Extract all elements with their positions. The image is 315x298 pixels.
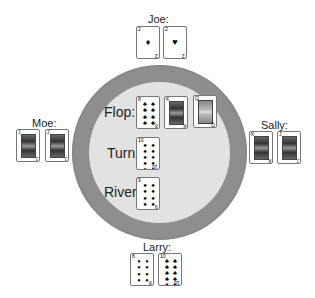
king-face-art-icon — [169, 101, 184, 125]
card-rank: 2 — [138, 27, 141, 32]
card-rank: 2 — [155, 53, 158, 58]
larry-card-2: 10 ♣♣ ♣♣ ♣♣ ♣♣ ♣♣ 10 — [158, 253, 182, 286]
card-rank: 8 — [155, 123, 158, 128]
sally-card-1: K K — [249, 131, 273, 164]
flop-card-1: 8 ♣♣ ♣♣ ♣♣ ♣♣ 8 — [136, 96, 160, 129]
king-face-art-icon — [254, 136, 269, 160]
player-label-sally: Sally: — [261, 119, 288, 131]
card-rank: 2 — [165, 27, 168, 32]
diamond-suit-icon: ♦ — [137, 37, 159, 48]
card-rank: J — [36, 156, 39, 161]
card-rank: 9 — [155, 204, 158, 209]
jack-face-art-icon — [282, 136, 297, 160]
card-rank: 8 — [138, 97, 141, 102]
sally-card-2: J J — [277, 131, 301, 164]
card-rank: 9 — [138, 178, 141, 183]
jack-face-art-icon — [50, 134, 65, 158]
queen-face-art-icon — [198, 100, 213, 124]
jack-face-art-icon — [21, 134, 36, 158]
card-rank: Q — [211, 122, 215, 127]
larry-card-1: 8 ♦♦ ♦♦ ♦♦ ♦♦ 8 — [130, 253, 154, 286]
flop-label: Flop: — [104, 104, 135, 120]
card-rank: 10 — [174, 280, 180, 285]
player-label-moe: Moe: — [32, 117, 56, 129]
turn-card: 10 ♠♠ ♠♠ ♠♠ ♠♠ ♠♠ 10 — [136, 137, 160, 170]
heart-suit-icon: ♥ — [164, 37, 186, 48]
card-rank: K — [183, 123, 186, 128]
card-rank: J — [297, 158, 300, 163]
moe-card-2: J J — [45, 129, 69, 162]
river-card: 9 ♠♠ ♠♠ ♠♠ ♠♠ 9 — [136, 177, 160, 210]
flop-card-2: K K — [164, 96, 188, 129]
joe-card-2: 2 ♥ 2 — [163, 26, 187, 59]
flop-card-3: Q Q — [193, 95, 217, 128]
card-rank: J — [65, 156, 68, 161]
player-label-larry: Larry: — [143, 241, 171, 253]
card-rank: 2 — [182, 53, 185, 58]
card-rank: 8 — [149, 280, 152, 285]
card-rank: 8 — [132, 254, 135, 259]
moe-card-1: J J — [16, 129, 40, 162]
turn-label: Turn: — [107, 145, 139, 161]
player-label-joe: Joe: — [148, 13, 169, 25]
card-rank: K — [268, 158, 271, 163]
card-rank: 10 — [152, 164, 158, 169]
joe-card-1: 2 ♦ 2 — [136, 26, 160, 59]
